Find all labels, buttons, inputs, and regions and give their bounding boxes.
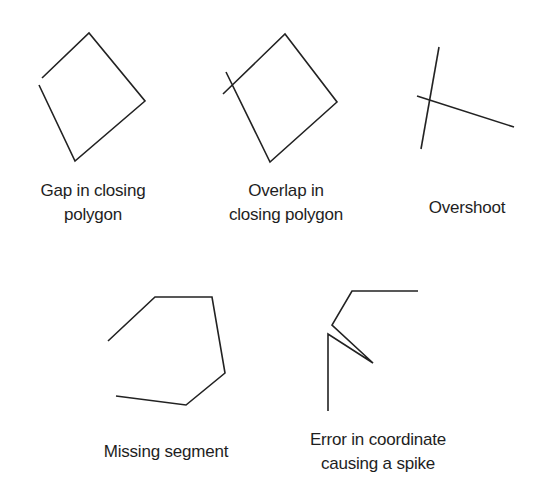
spike-label-line-1: Error in coordinate [310, 428, 446, 452]
gap-label-line-2: polygon [41, 203, 146, 227]
figure-lines [0, 0, 548, 485]
coordinate-spike-shape [328, 291, 418, 411]
missing-line [108, 297, 225, 405]
gap-label: Gap in closing polygon [41, 179, 146, 227]
missing-segment-shape [108, 297, 225, 405]
overshoot-label-line-1: Overshoot [429, 196, 506, 220]
overshoot-label: Overshoot [429, 196, 506, 220]
gap-label-line-1: Gap in closing [41, 179, 146, 203]
overlap-in-closing-polygon-shape [223, 34, 337, 162]
spike-label-line-2: causing a spike [310, 452, 446, 476]
spike-line [328, 291, 418, 411]
digitizing-errors-diagram: Gap in closing polygon Overlap in closin… [0, 0, 548, 485]
overlap-label-line-2: closing polygon [229, 203, 343, 227]
spike-label: Error in coordinate causing a spike [310, 428, 446, 476]
overlap-line [223, 34, 337, 162]
gap-in-closing-polygon-shape [39, 33, 145, 161]
overshoot-line [417, 96, 514, 127]
overlap-label: Overlap in closing polygon [229, 179, 343, 227]
gap-line [39, 33, 145, 161]
missing-label-line-1: Missing segment [104, 440, 229, 464]
missing-segment-label: Missing segment [104, 440, 229, 464]
overlap-label-line-1: Overlap in [229, 179, 343, 203]
overshoot-shape [417, 47, 514, 149]
